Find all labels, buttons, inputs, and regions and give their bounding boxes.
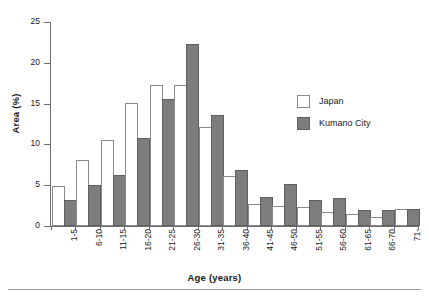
x-axis-tick-label: 41-45 <box>265 229 275 273</box>
x-axis-tick-label: 51-55 <box>314 229 324 273</box>
legend-swatch-japan <box>297 95 310 108</box>
bar-group <box>271 22 295 226</box>
chart-figure: Area (%) 0510152025 1-56-1011-1516-2021-… <box>0 0 429 296</box>
bar-group <box>394 22 418 226</box>
y-axis-tick: 5 <box>44 185 50 186</box>
bar-group <box>198 22 222 226</box>
x-axis-tick-label: 56-60 <box>338 229 348 273</box>
bar-kumano-city <box>407 209 420 226</box>
legend-label: Japan <box>319 96 344 107</box>
y-axis-tick-label: 25 <box>31 16 40 27</box>
x-axis-tick-label: 1-5 <box>69 229 79 273</box>
bar-group <box>369 22 393 226</box>
x-axis-tick-label: 46-50 <box>289 229 299 273</box>
x-axis-tick-label: 66-70 <box>387 229 397 273</box>
bottom-divider <box>8 289 421 290</box>
bar-group <box>222 22 246 226</box>
legend-label: Kumano City <box>319 118 371 129</box>
bar-group <box>173 22 197 226</box>
x-axis-tick-label: 11-15 <box>118 229 128 273</box>
bar-group <box>247 22 271 226</box>
x-axis-tick-label: 21-25 <box>167 229 177 273</box>
y-axis-tick: 20 <box>44 63 50 64</box>
x-axis-tick-label: 26-30 <box>192 229 202 273</box>
y-axis-tick: 25 <box>44 22 50 23</box>
bar-group <box>124 22 148 226</box>
x-axis-tick-label: 16-20 <box>143 229 153 273</box>
x-axis-tick-label: 61-65 <box>363 229 373 273</box>
bar-group <box>51 22 75 226</box>
x-axis-tick-label: 71- <box>412 229 422 273</box>
x-axis-title: Age (years) <box>0 272 429 283</box>
bar-group <box>100 22 124 226</box>
y-axis-tick-label: 5 <box>35 179 40 190</box>
legend-item: Japan <box>297 95 371 108</box>
y-axis-tick: 10 <box>44 144 50 145</box>
x-axis-tick-labels: 1-56-1011-1516-2021-2526-3031-3536-4041-… <box>51 229 418 271</box>
x-axis-tick-label: 31-35 <box>216 229 226 273</box>
bar-group <box>75 22 99 226</box>
legend-item: Kumano City <box>297 117 371 130</box>
y-axis-tick: 15 <box>44 104 50 105</box>
y-axis-title: Area (%) <box>10 69 21 159</box>
x-axis-tick-label: 6-10 <box>94 229 104 273</box>
x-axis-tick-label: 36-40 <box>241 229 251 273</box>
bar-group <box>149 22 173 226</box>
y-axis-tick-label: 20 <box>31 57 40 68</box>
x-axis-line <box>50 226 418 227</box>
y-axis-tick: 0 <box>44 226 50 227</box>
y-axis-tick-label: 15 <box>31 98 40 109</box>
y-axis-tick-label: 0 <box>35 220 40 231</box>
y-axis-tick-label: 10 <box>31 138 40 149</box>
legend-swatch-kumano <box>297 117 310 130</box>
chart-legend: JapanKumano City <box>297 95 371 139</box>
